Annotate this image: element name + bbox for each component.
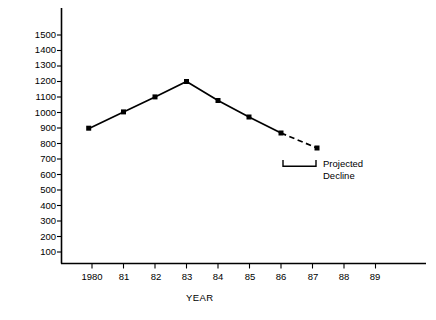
plot-area (0, 0, 436, 320)
data-point-84 (216, 98, 221, 103)
data-point-82 (153, 94, 158, 99)
data-point-85 (247, 115, 252, 120)
data-line-actual (89, 82, 281, 134)
projected-decline-bracket (283, 160, 316, 167)
data-point-markers (86, 79, 319, 151)
data-point-87 (315, 146, 320, 151)
line-chart: NUMBER OF PATIENT DAYS 1500 1400 1300 12… (0, 0, 436, 320)
data-point-1980 (86, 126, 91, 131)
data-point-86 (279, 131, 284, 136)
data-point-81 (121, 109, 126, 114)
data-line-projected (281, 133, 317, 148)
data-point-83 (184, 79, 189, 84)
